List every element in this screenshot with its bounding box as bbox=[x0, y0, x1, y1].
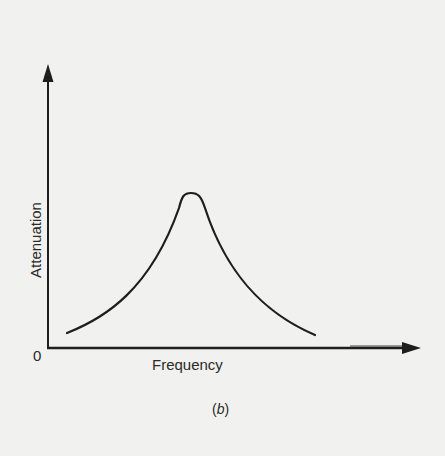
x-axis-arrowhead-icon bbox=[402, 342, 421, 354]
y-axis-label: Attenuation bbox=[27, 202, 44, 278]
origin-label: 0 bbox=[33, 347, 41, 364]
y-axis-arrowhead-icon bbox=[43, 64, 54, 82]
attenuation-frequency-diagram bbox=[0, 0, 445, 456]
attenuation-curve bbox=[67, 193, 315, 335]
figure-caption: (b) bbox=[212, 401, 229, 417]
x-axis-label: Frequency bbox=[152, 356, 223, 373]
caption-close-paren: ) bbox=[224, 401, 229, 417]
